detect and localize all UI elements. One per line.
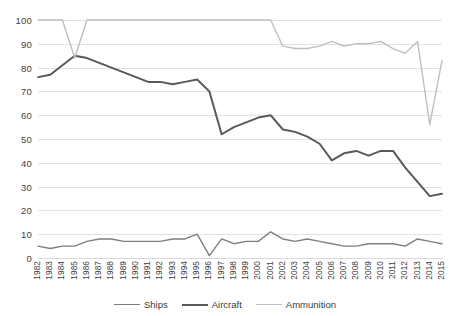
x-axis-tick-label: 1990 [132,261,140,280]
series-line-aircraft [38,56,442,196]
y-axis-tick-label: 30 [21,181,32,192]
gridline [38,258,442,259]
x-axis-tick-label: 1996 [205,261,213,280]
x-axis-tick-label: 1997 [218,261,226,280]
y-axis-tick-label: 40 [21,157,32,168]
x-axis-tick-label: 1992 [156,261,164,280]
series-line-ammunition [38,20,442,125]
x-axis-tick-label: 2012 [401,261,409,280]
x-axis-tick-label: 1991 [144,261,152,280]
y-axis-tick-label: 90 [21,38,32,49]
x-axis-tick-label: 2014 [426,261,434,280]
x-axis-tick-label: 2010 [377,261,385,280]
legend-swatch-ammunition [256,304,282,305]
x-axis-tick-label: 2003 [291,261,299,280]
legend-label: Aircraft [212,299,242,310]
x-axis-tick-label: 1984 [58,261,66,280]
legend-item-aircraft[interactable]: Aircraft [182,299,242,310]
series-lines [38,20,442,258]
x-axis: 1982198319841985198619871988198919901991… [38,261,442,299]
y-axis-tick-label: 100 [16,15,32,26]
x-axis-tick-label: 1999 [242,261,250,280]
x-axis-tick-label: 1989 [120,261,128,280]
y-axis-tick-label: 50 [21,134,32,145]
x-axis-tick-label: 2007 [340,261,348,280]
x-axis-tick-label: 2008 [352,261,360,280]
x-axis-tick-label: 2015 [438,261,446,280]
x-axis-tick-label: 1993 [169,261,177,280]
x-axis-tick-label: 1994 [181,261,189,280]
x-axis-tick-label: 2005 [316,261,324,280]
x-axis-tick-label: 1998 [230,261,238,280]
x-axis-tick-label: 1987 [95,261,103,280]
line-chart: 1009080706050403020100 19821983198419851… [0,0,450,316]
legend-item-ammunition[interactable]: Ammunition [256,299,336,310]
y-axis-tick-label: 70 [21,86,32,97]
plot-area [38,20,442,258]
x-axis-tick-label: 1983 [46,261,54,280]
x-axis-tick-label: 1995 [193,261,201,280]
y-axis-tick-label: 0 [27,253,32,264]
y-axis-tick-label: 20 [21,205,32,216]
x-axis-tick-label: 2011 [389,261,397,279]
y-axis: 1009080706050403020100 [0,20,32,258]
legend-swatch-ships [114,304,140,305]
x-axis-tick-label: 2004 [303,261,311,280]
y-axis-tick-label: 60 [21,110,32,121]
x-axis-tick-label: 2006 [328,261,336,280]
x-axis-tick-label: 2000 [254,261,262,280]
y-axis-tick-label: 80 [21,62,32,73]
x-axis-tick-label: 2001 [267,261,275,280]
x-axis-tick-label: 2013 [414,261,422,280]
chart-legend: ShipsAircraftAmmunition [0,299,450,310]
x-axis-tick-label: 1986 [83,261,91,280]
legend-item-ships[interactable]: Ships [114,299,168,310]
legend-label: Ammunition [286,299,336,310]
x-axis-tick-label: 1982 [34,261,42,280]
series-line-ships [38,232,442,256]
x-axis-tick-label: 1988 [107,261,115,280]
legend-label: Ships [144,299,168,310]
x-axis-tick-label: 1985 [71,261,79,280]
x-axis-tick-label: 2009 [365,261,373,280]
y-axis-tick-label: 10 [21,229,32,240]
x-axis-tick-label: 2002 [279,261,287,280]
legend-swatch-aircraft [182,304,208,306]
